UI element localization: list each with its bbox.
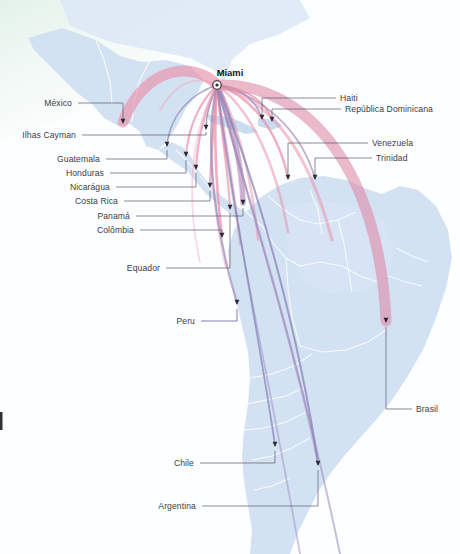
label-equador: Equador — [127, 263, 160, 273]
label-brasil: Brasil — [416, 404, 438, 414]
label-nicaragua: Nicarágua — [70, 182, 110, 192]
label-venezuela: Venezuela — [372, 138, 413, 148]
label-costa-rica: Costa Rica — [75, 196, 118, 206]
edge-artifact — [0, 412, 3, 430]
label-chile: Chile — [174, 458, 194, 468]
label-honduras: Honduras — [66, 168, 104, 178]
label-panama: Panamá — [97, 211, 130, 221]
hub-label: Miami — [217, 67, 244, 78]
map-canvas: MéxicoIlhas CaymanGuatemalaHondurasNicar… — [0, 0, 460, 554]
label-haiti: Haiti — [340, 93, 358, 103]
label-republica-dominicana: República Dominicana — [345, 104, 433, 114]
label-guatemala: Guatemala — [57, 154, 100, 164]
hub-marker-dot — [215, 83, 218, 86]
label-argentina: Argentina — [158, 501, 196, 511]
label-peru: Peru — [176, 316, 195, 326]
label-ilhas-cayman: Ilhas Cayman — [22, 130, 76, 140]
label-mexico: México — [44, 98, 72, 108]
label-colombia: Colômbia — [97, 225, 134, 235]
flow-map-figure: MéxicoIlhas CaymanGuatemalaHondurasNicar… — [0, 0, 460, 554]
label-trinidad: Trinidad — [376, 153, 408, 163]
